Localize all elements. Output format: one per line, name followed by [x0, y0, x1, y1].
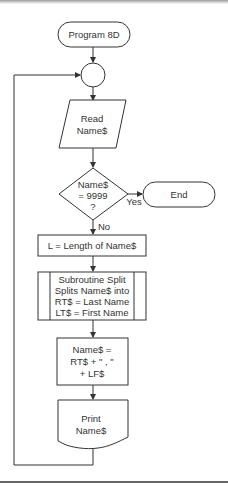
decision-line3: ? — [90, 201, 95, 212]
assign-line2: RT$ + " , " — [70, 356, 113, 367]
read-label-line1: Read — [81, 113, 104, 124]
read-label-line2: Name$ — [77, 125, 108, 136]
yes-label: Yes — [126, 196, 142, 207]
assign-line1: Name$ = — [73, 344, 112, 355]
loop-connector — [81, 63, 105, 87]
start-label: Program 8D — [68, 29, 119, 40]
flowchart: Program 8D Read Name$ Name$ = 9999 ? Yes… — [0, 0, 228, 489]
subroutine-line2: Splits Name$ into — [55, 285, 129, 296]
no-label: No — [98, 221, 110, 232]
subroutine-line4: LT$ = First Name — [56, 307, 129, 318]
end-label: End — [171, 189, 188, 200]
decision-line1: Name$ — [78, 179, 109, 190]
print-line1: Print — [81, 413, 101, 424]
subroutine-line3: RT$ = Last Name — [55, 296, 130, 307]
read-input-shape — [59, 100, 126, 148]
length-label: L = Length of Name$ — [48, 240, 137, 251]
subroutine-line1: Subroutine Split — [58, 274, 125, 285]
print-line2: Name$ — [76, 425, 107, 436]
assign-line3: + LF$ — [80, 368, 105, 379]
decision-line2: = 9999 — [78, 190, 107, 201]
